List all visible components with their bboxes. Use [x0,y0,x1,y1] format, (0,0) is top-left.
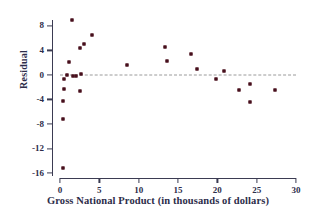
data-point [249,100,252,103]
y-tick: -12 [47,148,52,149]
x-axis-title: Gross National Product (in thousands of … [0,195,316,206]
data-point [125,64,128,67]
x-tick: 10 [138,178,139,183]
x-tick: 5 [99,178,100,183]
x-tick-label: 5 [97,185,102,195]
data-point [214,78,217,81]
y-tick: 0 [47,74,52,75]
x-tick-label: 15 [174,185,183,195]
data-point [195,68,198,71]
x-tick: 15 [177,178,178,183]
y-tick-label: 4 [40,45,45,55]
x-tick-label: 30 [292,185,301,195]
x-tick: 20 [217,178,218,183]
data-point [66,73,69,76]
y-tick: 4 [47,50,52,51]
x-tick-label: 10 [134,185,143,195]
x-tick: 30 [295,178,296,183]
data-point [237,88,240,91]
y-tick: -16 [47,172,52,173]
data-point [79,89,82,92]
data-point [273,89,276,92]
zero-residual-reference-line [60,74,296,75]
data-point [165,59,168,62]
y-tick-label: 0 [40,70,45,80]
x-tick-label: 25 [252,185,261,195]
y-tick: -4 [47,99,52,100]
x-tick: 25 [256,178,257,183]
x-tick-label: 20 [213,185,222,195]
x-tick-label: 0 [58,185,63,195]
residual-plot-figure: Residual 840-4-8-12-16 051015202530 Gros… [0,0,316,214]
y-tick: -8 [47,123,52,124]
data-point [74,74,77,77]
data-point [91,34,94,37]
y-tick: 8 [47,25,52,26]
data-point [62,88,65,91]
data-point [62,118,65,121]
data-point [68,61,71,64]
data-point [222,69,225,72]
data-point [82,43,85,46]
y-tick-label: -12 [32,144,44,154]
y-tick-label: -8 [37,119,45,129]
data-point [79,46,82,49]
data-point [70,18,73,21]
data-point [62,99,65,102]
y-axis-title: Residual [18,25,29,115]
y-tick-label: -16 [32,168,44,178]
data-point [249,83,252,86]
data-point [62,167,65,170]
y-tick-label: -4 [37,94,45,104]
data-point [62,77,65,80]
data-point [189,53,192,56]
data-point [80,72,83,75]
plot-area [60,16,296,178]
data-point [164,46,167,49]
x-tick: 0 [59,178,60,183]
y-tick-label: 8 [40,21,45,31]
y-axis-line [52,20,53,176]
